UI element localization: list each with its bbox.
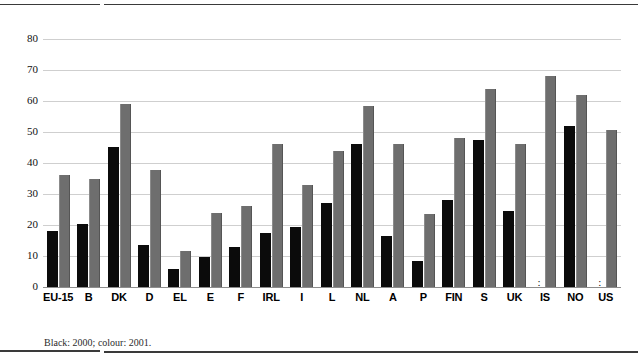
bar-group (438, 39, 468, 287)
x-axis-label-i: I (286, 291, 316, 303)
x-axis-label-fin: FIN (438, 291, 468, 303)
y-tick-label-30: 30 (12, 188, 38, 199)
chart-footnote: Black: 2000; colour: 2001. (44, 337, 151, 348)
y-tick-label-0: 0 (12, 281, 38, 292)
bar-2000 (503, 211, 514, 287)
missing-data-symbol: : (537, 279, 540, 286)
chart-page: 01020304050607080 :: EU-15BDKDELEFIRLILN… (0, 0, 638, 363)
bar-2000 (260, 233, 271, 287)
x-axis-label-el: EL (165, 291, 195, 303)
bar-2001 (393, 144, 404, 287)
bar-2001 (363, 106, 374, 287)
x-axis-label-us: US (591, 291, 621, 303)
bar-group (165, 39, 195, 287)
bar-2000 (412, 261, 423, 287)
bar-2000 (381, 236, 392, 287)
top-rule-left-segment (0, 4, 100, 5)
bar-2001 (241, 206, 252, 287)
x-axis-label-d: D (134, 291, 164, 303)
bar-2000 (564, 126, 575, 287)
bar-2000 (229, 247, 240, 287)
x-axis-label-nl: NL (347, 291, 377, 303)
bar-group (73, 39, 103, 287)
bar-2001 (576, 95, 587, 287)
x-axis-label-eu-15: EU-15 (43, 291, 73, 303)
bottom-rule (104, 351, 638, 353)
bar-2001 (515, 144, 526, 287)
bar-group (104, 39, 134, 287)
top-rule (104, 4, 638, 5)
bar-2001 (454, 138, 465, 287)
bar-missing: : (594, 39, 605, 287)
bar-2001 (606, 130, 617, 287)
bar-2000 (199, 257, 210, 287)
bar-group (43, 39, 73, 287)
bar-2001 (424, 214, 435, 287)
bar-group (378, 39, 408, 287)
bar-2001 (180, 251, 191, 287)
x-axis-label-irl: IRL (256, 291, 286, 303)
bar-group (134, 39, 164, 287)
bar-group (226, 39, 256, 287)
bar-group: : (591, 39, 621, 287)
bar-2001 (59, 175, 70, 287)
bar-group (560, 39, 590, 287)
bar-2001 (272, 144, 283, 287)
bar-2001 (302, 185, 313, 287)
bar-2000 (351, 144, 362, 287)
bar-groups: :: (43, 39, 621, 287)
x-axis-label-f: F (226, 291, 256, 303)
x-axis-label-no: NO (560, 291, 590, 303)
bar-2000 (77, 224, 88, 287)
bar-2000 (108, 147, 119, 287)
bar-group (408, 39, 438, 287)
y-tick-label-40: 40 (12, 157, 38, 168)
bar-group (469, 39, 499, 287)
bar-group (317, 39, 347, 287)
bar-group (286, 39, 316, 287)
bar-2000 (321, 203, 332, 287)
y-tick-label-20: 20 (12, 219, 38, 230)
bar-2000 (442, 200, 453, 287)
y-tick-label-80: 80 (12, 33, 38, 44)
x-axis-labels: EU-15BDKDELEFIRLILNLAPFINSUKISNOUS (43, 291, 621, 303)
x-axis-label-a: A (378, 291, 408, 303)
bar-group (195, 39, 225, 287)
bar-2001 (485, 89, 496, 287)
missing-data-symbol: : (598, 279, 601, 286)
x-axis-label-e: E (195, 291, 225, 303)
bar-2001 (211, 213, 222, 287)
y-tick-label-60: 60 (12, 95, 38, 106)
y-tick-label-10: 10 (12, 250, 38, 261)
bar-2000 (47, 231, 58, 287)
x-axis-label-uk: UK (499, 291, 529, 303)
x-axis-label-b: B (73, 291, 103, 303)
bar-group: : (530, 39, 560, 287)
x-axis-label-dk: DK (104, 291, 134, 303)
bottom-rule-left-segment (0, 350, 100, 352)
x-axis-label-is: IS (530, 291, 560, 303)
bar-2001 (89, 179, 100, 288)
bar-2001 (150, 170, 161, 287)
x-axis-label-p: P (408, 291, 438, 303)
bar-group (347, 39, 377, 287)
bar-missing: : (533, 39, 544, 287)
bar-2000 (138, 245, 149, 287)
x-axis-label-s: S (469, 291, 499, 303)
bar-2000 (168, 269, 179, 287)
y-tick-label-70: 70 (12, 64, 38, 75)
bar-group (499, 39, 529, 287)
bar-group (256, 39, 286, 287)
bar-2001 (120, 104, 131, 287)
bar-2000 (473, 140, 484, 287)
bar-2000 (290, 227, 301, 287)
bar-2001 (545, 76, 556, 287)
bar-2001 (333, 151, 344, 287)
y-tick-label-50: 50 (12, 126, 38, 137)
gridline-0 (43, 287, 621, 288)
x-axis-label-l: L (317, 291, 347, 303)
